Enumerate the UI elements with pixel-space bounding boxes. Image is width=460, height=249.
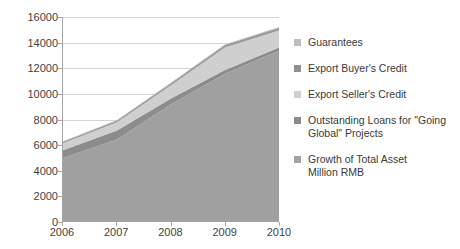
legend-swatch-icon xyxy=(294,65,301,72)
y-axis-tick-label: 16000 xyxy=(2,12,58,23)
x-axis-tick-label: 2007 xyxy=(94,226,138,238)
y-axis-tick-label: 6000 xyxy=(2,140,58,151)
x-axis-tick-label: 2010 xyxy=(257,226,301,238)
legend-item[interactable]: Export Buyer's Credit xyxy=(294,62,458,75)
x-axis-tick-label: 2009 xyxy=(203,226,247,238)
plot-area xyxy=(62,17,279,222)
plot-region: 0200040006000800010000120001400016000 20… xyxy=(0,0,290,249)
y-axis-tick-labels: 0200040006000800010000120001400016000 xyxy=(0,17,58,222)
legend-item-label: Outstanding Loans for "Going Global" Pro… xyxy=(308,114,458,140)
y-axis-tick-label: 10000 xyxy=(2,89,58,100)
legend-swatch-icon xyxy=(294,91,301,98)
stacked-area-chart-figure: 0200040006000800010000120001400016000 20… xyxy=(0,0,460,249)
y-axis-tick-label: 4000 xyxy=(2,166,58,177)
legend-item[interactable]: Export Seller's Credit xyxy=(294,88,458,101)
legend-item[interactable]: Growth of Total Asset Million RMB xyxy=(294,153,458,179)
legend-item-label: Growth of Total Asset Million RMB xyxy=(308,153,407,179)
legend-swatch-icon xyxy=(294,39,301,46)
legend-swatch-icon xyxy=(294,156,301,163)
y-axis-tick-label: 14000 xyxy=(2,38,58,49)
legend-item[interactable]: Guarantees xyxy=(294,36,458,49)
x-axis-tick-label: 2008 xyxy=(149,226,193,238)
legend-item-label: Guarantees xyxy=(308,36,363,49)
legend-item[interactable]: Outstanding Loans for "Going Global" Pro… xyxy=(294,114,458,140)
x-axis-tick-labels: 20062007200820092010 xyxy=(62,226,279,244)
y-axis-tick-label: 12000 xyxy=(2,63,58,74)
legend-item-label: Export Seller's Credit xyxy=(308,88,406,101)
legend-item-label: Export Buyer's Credit xyxy=(308,62,407,75)
x-axis-tick-label: 2006 xyxy=(40,226,84,238)
legend-swatch-icon xyxy=(294,117,301,124)
area-series-group xyxy=(63,17,279,221)
y-axis-tick-label: 8000 xyxy=(2,115,58,126)
chart-legend: GuaranteesExport Buyer's CreditExport Se… xyxy=(294,36,458,192)
y-axis-tick-label: 2000 xyxy=(2,191,58,202)
